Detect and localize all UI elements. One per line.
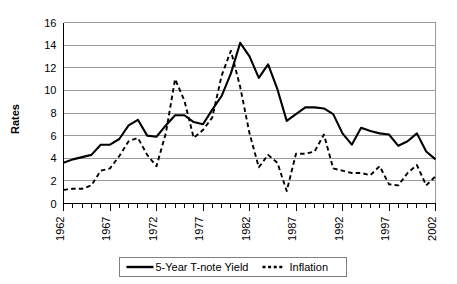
legend-label-inflation: Inflation [290, 261, 329, 273]
series-line-inflation [64, 51, 436, 191]
y-tick-label: 16 [44, 17, 56, 29]
y-tick-label: 8 [50, 107, 56, 119]
y-axis-title: Rates [9, 104, 21, 134]
data-series-group [64, 43, 436, 191]
y-tick-label: 4 [50, 152, 56, 164]
y-tick-label: 10 [44, 84, 56, 96]
y-tick-label: 6 [50, 130, 56, 142]
x-tick-label: 1962 [54, 217, 66, 241]
x-tick-label: 1992 [333, 217, 345, 241]
x-tick-label: 1997 [379, 217, 391, 241]
y-axis-tick-labels: 0246810121416 [44, 17, 56, 210]
series-line-5-year-t-note-yield [64, 43, 436, 163]
x-tick-label: 1972 [147, 217, 159, 241]
y-tick-label: 0 [50, 198, 56, 210]
x-tick-label: 1977 [193, 217, 205, 241]
y-tick-label: 12 [44, 62, 56, 74]
legend-label-t-note-yield: 5-Year T-note Yield [156, 261, 249, 273]
chart-container: 0246810121416 19621967197219771982198719… [0, 0, 457, 284]
x-tick-label: 1982 [240, 217, 252, 241]
x-axis-tick-marks [64, 204, 436, 211]
x-axis-tick-labels: 196219671972197719821987199219972002 [54, 217, 438, 241]
x-tick-label: 1967 [100, 217, 112, 241]
chart-legend: 5-Year T-note YieldInflation [120, 258, 347, 277]
x-tick-label: 1987 [286, 217, 298, 241]
line-chart: 0246810121416 19621967197219771982198719… [0, 0, 457, 284]
y-tick-label: 14 [44, 39, 56, 51]
y-tick-label: 2 [50, 175, 56, 187]
x-tick-label: 2002 [426, 217, 438, 241]
